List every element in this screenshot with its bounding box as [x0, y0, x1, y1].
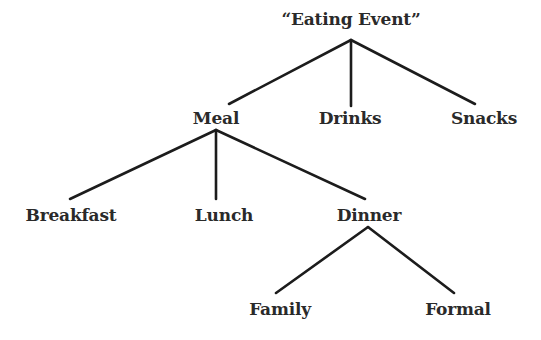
node-lunch: Lunch: [195, 205, 253, 225]
tree-edges: [0, 0, 541, 340]
edge-meal-dinner: [216, 130, 365, 199]
node-drinks: Drinks: [319, 108, 382, 128]
node-breakfast: Breakfast: [26, 205, 117, 225]
node-formal: Formal: [425, 299, 491, 319]
node-family: Family: [249, 299, 311, 319]
edge-meal-breakfast: [70, 130, 216, 199]
edge-dinner-family: [276, 227, 368, 293]
edge-eating-event-meal: [229, 40, 351, 104]
node-eating-event: “Eating Event”: [281, 9, 420, 29]
node-meal: Meal: [193, 108, 239, 128]
node-dinner: Dinner: [337, 205, 402, 225]
edge-dinner-formal: [368, 227, 454, 293]
edge-eating-event-snacks: [351, 40, 475, 104]
node-snacks: Snacks: [451, 108, 517, 128]
